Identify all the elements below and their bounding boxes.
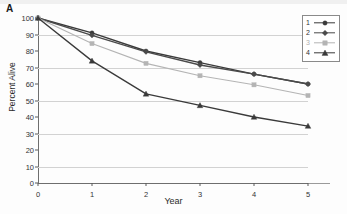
legend-label-2: 2 (306, 28, 313, 38)
x-tick-mark (308, 183, 309, 186)
legend-marker-square-icon (320, 39, 329, 48)
x-axis-line (38, 183, 308, 184)
legend-label-1: 1 (306, 18, 313, 28)
series-1 (36, 16, 310, 86)
y-tick-label: 40 (26, 113, 34, 122)
data-point (305, 81, 310, 86)
y-tick-label: 0 (30, 179, 34, 188)
x-axis-title: Year (0, 196, 347, 206)
y-tick-label: 10 (26, 162, 34, 171)
legend-swatch-1 (313, 18, 336, 28)
y-tick-label: 30 (26, 129, 34, 138)
legend-swatch-3 (313, 38, 336, 48)
scan-artifact-band (0, 0, 347, 4)
series-layer (38, 18, 308, 183)
legend-label-3: 3 (306, 38, 313, 48)
legend-label-4: 4 (306, 48, 313, 58)
data-point (251, 71, 256, 76)
x-tick-mark (146, 183, 147, 186)
plot-area: 0102030405060708090100 012345 (38, 18, 308, 183)
x-tick-mark (254, 183, 255, 186)
y-tick-label: 70 (26, 63, 34, 72)
series-4 (35, 15, 311, 128)
legend-marker-diamond-icon (320, 29, 329, 38)
data-point (144, 61, 148, 65)
panel-label: A (6, 3, 14, 14)
data-point (252, 83, 256, 87)
data-point (198, 74, 202, 78)
series-line-4 (38, 18, 308, 126)
y-tick-label: 60 (26, 80, 34, 89)
legend-item-3: 3 (306, 38, 336, 48)
y-tick-label: 80 (26, 47, 34, 56)
legend-item-1: 1 (306, 18, 336, 28)
figure-panel-a: A Percent Alive 0102030405060708090100 0… (0, 0, 347, 214)
y-axis-title: Percent Alive (7, 42, 17, 132)
legend-marker-triangle-icon (320, 49, 329, 58)
data-point (306, 93, 310, 97)
x-tick-mark (92, 183, 93, 186)
x-tick-mark (38, 183, 39, 186)
legend-item-4: 4 (306, 48, 336, 58)
legend-swatch-2 (313, 28, 336, 38)
data-point (90, 41, 94, 45)
y-tick-label: 20 (26, 146, 34, 155)
y-tick-label: 90 (26, 30, 34, 39)
x-tick-mark (200, 183, 201, 186)
x-axis-extension (308, 183, 330, 184)
legend-marker-circle-icon (320, 19, 329, 28)
y-tick-label: 50 (26, 96, 34, 105)
legend-item-2: 2 (306, 28, 336, 38)
legend: 1234 (302, 15, 340, 62)
legend-swatch-4 (313, 48, 336, 58)
data-point (143, 91, 149, 96)
y-tick-label: 100 (21, 14, 34, 23)
series-2 (35, 15, 310, 86)
